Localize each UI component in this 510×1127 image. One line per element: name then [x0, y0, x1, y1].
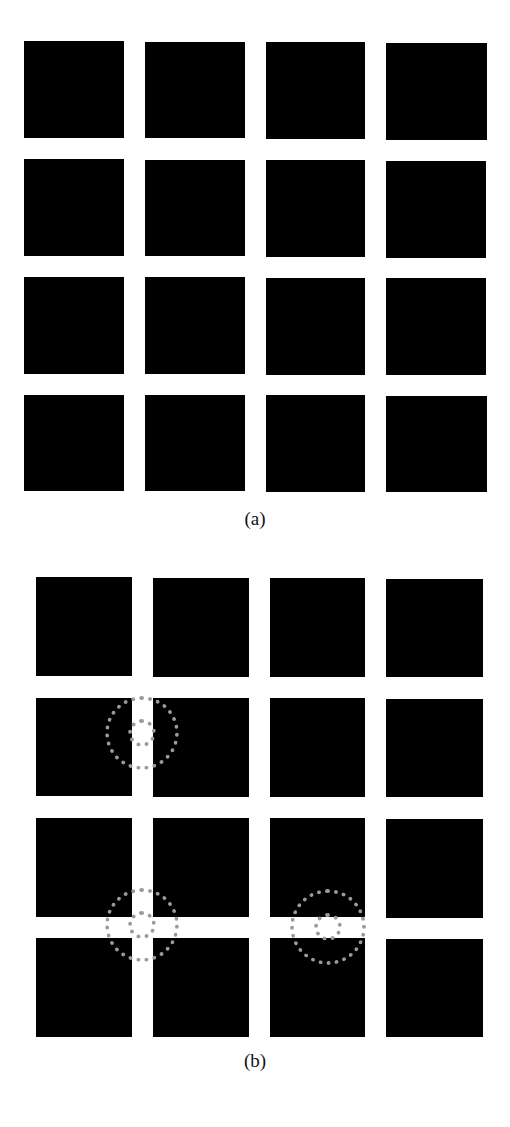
- target-1-inner-ring-icon: [128, 719, 156, 747]
- grid-b-square-1: [36, 577, 132, 676]
- grid-b-square-2: [153, 578, 249, 677]
- grid-b-square-3: [270, 578, 365, 677]
- target-3-inner-ring-icon: [314, 913, 342, 941]
- grid-b-square-8: [386, 699, 483, 797]
- caption-b: (b): [0, 1050, 510, 1072]
- grid-b-square-7: [270, 698, 365, 797]
- grid-b-square-14: [153, 938, 249, 1037]
- grid-b-square-12: [386, 819, 483, 918]
- grid-b-square-4: [386, 579, 483, 677]
- grid-b-square-16: [386, 939, 483, 1037]
- panel-b: [0, 0, 510, 1100]
- target-2-inner-ring-icon: [128, 911, 156, 939]
